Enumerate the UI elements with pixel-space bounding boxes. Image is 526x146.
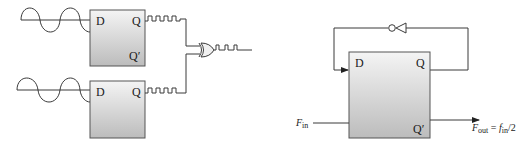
pin-q-label: Q bbox=[132, 85, 141, 99]
flip-flop-bottom: D Q bbox=[90, 81, 145, 138]
inverter-icon bbox=[389, 23, 406, 33]
fout-output: Fout = fin/2 bbox=[430, 120, 516, 135]
square-wave-output-top bbox=[145, 16, 200, 46]
fout-label: Fout = fin/2 bbox=[471, 122, 516, 135]
pin-qbar-label: Q′ bbox=[129, 49, 141, 63]
square-wave-output-bottom bbox=[145, 54, 200, 93]
sine-wave-input-bottom bbox=[17, 78, 90, 102]
pin-q-label: Q bbox=[416, 56, 425, 70]
pin-d-label: D bbox=[96, 85, 105, 99]
diagram-canvas: D Q Q′ D Q bbox=[0, 0, 526, 146]
fin-label: Fin bbox=[295, 117, 308, 130]
sine-wave-input-top bbox=[21, 8, 90, 32]
right-diagram: D Q Q′ Fin Fout = fin/2 bbox=[295, 23, 516, 138]
pin-qbar-label: Q′ bbox=[413, 122, 425, 136]
pin-d-label: D bbox=[355, 56, 364, 70]
pulse-train-output bbox=[214, 45, 252, 50]
flip-flop-divider: D Q Q′ bbox=[349, 52, 430, 138]
xor-gate-icon bbox=[199, 43, 214, 57]
left-diagram: D Q Q′ D Q bbox=[17, 8, 252, 138]
pin-d-label: D bbox=[96, 14, 105, 28]
fin-input: Fin bbox=[295, 117, 349, 130]
pin-q-label: Q bbox=[132, 14, 141, 28]
flip-flop-top: D Q Q′ bbox=[90, 10, 145, 66]
